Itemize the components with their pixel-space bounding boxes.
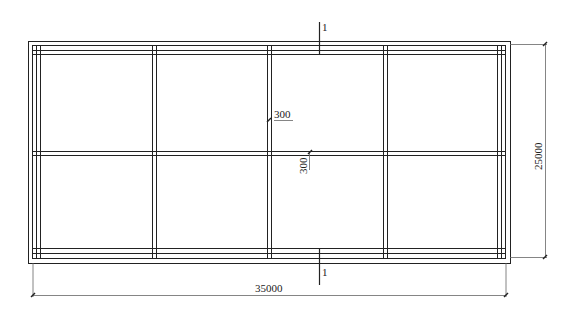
offset-vertical-label: 300 [297, 157, 309, 174]
section-label-bottom: 1 [322, 266, 328, 278]
offset-horizontal-label: 300 [274, 108, 291, 120]
height-dimension-label: 25000 [532, 142, 544, 170]
section-label-top: 1 [322, 21, 328, 33]
width-dimension-label: 35000 [255, 282, 283, 294]
outer-boundary [29, 42, 511, 264]
plan-drawing: 1 1 35000 25000 300 300 [0, 0, 574, 317]
